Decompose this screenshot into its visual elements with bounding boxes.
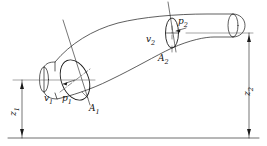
height-outlet-arrowhead-top (247, 35, 251, 42)
height-inlet-subscript: 1 (13, 107, 21, 111)
tube-left-stub-shoulder (44, 62, 55, 67)
velocity-inlet-label: v1 (44, 94, 53, 105)
outlet-section-plane-line (168, 2, 176, 52)
tube-inner-surface (55, 37, 233, 99)
height-inlet-label: z1 (9, 107, 20, 116)
figure-canvas (0, 0, 267, 146)
pressure-outlet-label: p2 (178, 17, 188, 28)
height-outlet-subscript: 2 (247, 87, 255, 91)
area-outlet-label: A2 (158, 54, 169, 65)
velocity-outlet-label: v2 (146, 35, 155, 46)
height-outlet-symbol: z (242, 91, 252, 96)
tube-right-cap-ellipse (228, 14, 238, 37)
height-inlet-arrowhead-top (20, 82, 24, 89)
area-outlet-subscript: 2 (165, 58, 169, 66)
pressure-inlet-label: p1 (62, 94, 72, 105)
height-outlet-arrowhead-bottom (247, 129, 251, 136)
area-inlet-subscript: 1 (96, 108, 100, 116)
inlet-radius-arrowhead (63, 82, 67, 85)
area-inlet-label: A1 (89, 104, 100, 115)
height-inlet-arrowhead-bottom (20, 129, 24, 136)
velocity-inlet-subscript: 1 (49, 98, 53, 106)
tube-right-cap-outer (233, 14, 245, 37)
height-inlet-symbol: z (8, 111, 18, 116)
velocity-outlet-subscript: 2 (151, 39, 155, 47)
pressure-inlet-subscript: 1 (68, 98, 72, 106)
pressure-outlet-subscript: 2 (184, 21, 188, 29)
fluid-stream-tube-figure: v1 p1 A1 v2 p2 A2 z1 z2 (0, 0, 267, 146)
height-outlet-label: z2 (243, 87, 254, 96)
